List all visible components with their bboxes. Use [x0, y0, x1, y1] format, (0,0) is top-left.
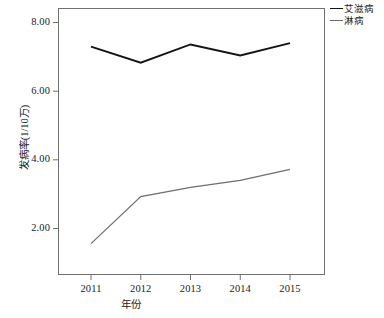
x-tick-label-2011: 2011 [66, 283, 116, 294]
chart-legend: 艾滋病 淋病 [330, 3, 384, 27]
x-tick-label-2015: 2015 [265, 283, 315, 294]
x-axis-ticks [91, 275, 290, 281]
y-tick-label-8: 8.00 [6, 16, 50, 27]
chart-canvas [0, 0, 384, 318]
x-axis-title-text: 年份 [121, 299, 141, 310]
legend-item-gonorrhea: 淋病 [330, 15, 384, 26]
series-line-aids [91, 43, 290, 63]
y-axis-title: 发病率(1/10万) [16, 63, 31, 213]
y-axis-ticks [53, 23, 59, 229]
x-tick-label-2014: 2014 [215, 283, 265, 294]
legend-label-aids: 艾滋病 [344, 4, 374, 14]
legend-swatch-aids [330, 8, 343, 9]
legend-item-aids: 艾滋病 [330, 3, 384, 14]
y-tick-label-2: 2.00 [6, 222, 50, 233]
x-tick-label-2012: 2012 [116, 283, 166, 294]
legend-label-gonorrhea: 淋病 [344, 16, 364, 26]
series-line-gonorrhea [91, 169, 290, 243]
line-chart: 8.00 6.00 4.00 2.00 2011 2012 2013 2014 … [0, 0, 384, 318]
x-tick-label-2013: 2013 [166, 283, 216, 294]
x-axis-title: 年份 [0, 296, 384, 311]
legend-swatch-gonorrhea [330, 20, 343, 21]
